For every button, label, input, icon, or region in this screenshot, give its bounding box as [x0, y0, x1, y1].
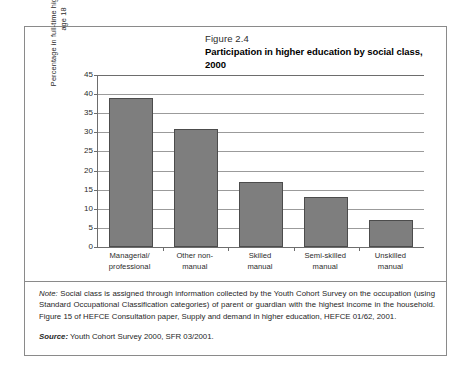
figure-title: Participation in higher education by soc… [205, 45, 445, 71]
y-tick-label: 40 [71, 90, 93, 98]
x-category-label-line: Managerial/ [97, 251, 162, 262]
y-tickmark [94, 228, 98, 229]
chart-axes [97, 75, 424, 248]
bar-series [98, 75, 424, 247]
y-tickmark [94, 171, 98, 172]
y-tickmark [94, 190, 98, 191]
note-paragraph: Note: Social class is assigned through i… [39, 288, 435, 322]
source-label: Source: [39, 332, 68, 341]
x-category-label-line: Unskilled [358, 251, 423, 262]
y-tickmark [94, 94, 98, 95]
bar[interactable] [109, 98, 153, 247]
bar[interactable] [304, 197, 348, 247]
x-category-label: Other non-manual [162, 251, 227, 272]
y-tick-label: 0 [71, 243, 93, 251]
x-category-label: Unskilledmanual [358, 251, 423, 272]
x-category-label-line: Other non- [162, 251, 227, 262]
bar-slot [98, 75, 163, 247]
x-category-label: Semi-skilledmanual [293, 251, 358, 272]
notes-divider [25, 281, 446, 282]
y-tick-label: 15 [71, 186, 93, 194]
x-category-label-line: manual [358, 262, 423, 273]
x-axis-category-labels: Managerial/professionalOther non-manualS… [97, 251, 423, 272]
y-tick-label: 30 [71, 128, 93, 136]
y-tick-label: 10 [71, 205, 93, 213]
note-label: Note: [39, 289, 58, 298]
y-tick-label: 45 [71, 71, 93, 79]
y-axis-label: Percentage in full-time higher education… [49, 0, 69, 89]
x-category-label-line: Semi-skilled [293, 251, 358, 262]
figure-panel: Figure 2.4 Participation in higher educa… [24, 26, 447, 356]
source-paragraph: Source: Youth Cohort Survey 2000, SFR 03… [39, 331, 435, 342]
bar-slot [163, 75, 228, 247]
x-category-label-line: professional [97, 262, 162, 273]
x-category-label: Skilledmanual [227, 251, 292, 272]
y-tickmark [94, 75, 98, 76]
y-tick-label: 25 [71, 147, 93, 155]
y-tickmark [94, 151, 98, 152]
x-category-label: Managerial/professional [97, 251, 162, 272]
chart-plot-area: Percentage in full-time higher education… [53, 75, 425, 275]
y-tickmark [94, 132, 98, 133]
figure-heading: Figure 2.4 Participation in higher educa… [205, 33, 445, 71]
y-axis-tick-labels: 051015202530354045 [71, 75, 93, 247]
bar[interactable] [369, 220, 413, 247]
y-tick-label: 35 [71, 109, 93, 117]
y-tick-label: 20 [71, 167, 93, 175]
y-tickmark [94, 113, 98, 114]
source-body: Youth Cohort Survey 2000, SFR 03/2001. [68, 332, 214, 341]
bar-slot [228, 75, 293, 247]
x-category-label-line: manual [162, 262, 227, 273]
figure-number: Figure 2.4 [205, 33, 445, 45]
x-category-label-line: manual [227, 262, 292, 273]
bar[interactable] [239, 182, 283, 247]
y-tick-label: 5 [71, 224, 93, 232]
x-category-label-line: Skilled [227, 251, 292, 262]
y-tickmark [94, 247, 98, 248]
x-category-label-line: manual [293, 262, 358, 273]
bar-slot [359, 75, 424, 247]
y-tickmark [94, 209, 98, 210]
bar[interactable] [174, 129, 218, 247]
bar-slot [294, 75, 359, 247]
note-body: Social class is assigned through informa… [39, 289, 435, 321]
figure-notes: Note: Social class is assigned through i… [39, 288, 435, 343]
